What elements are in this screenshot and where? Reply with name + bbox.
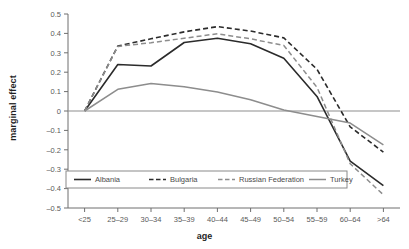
y-axis-tick-label: –0.2 [46, 146, 61, 155]
x-axis-tick-label: 35–39 [174, 215, 195, 224]
y-axis-tick-label: 0.5 [51, 10, 61, 19]
legend-label-albania: Albania [95, 175, 121, 184]
y-axis-tick-label: 0.3 [51, 49, 61, 58]
y-axis-tick-label: –0.5 [46, 204, 61, 213]
y-axis-title-text: marginal effect [8, 75, 18, 141]
y-axis-title: marginal effect [2, 0, 24, 215]
marginal-effect-line-chart: 0.50.40.30.20.10–0.1–0.2–0.3–0.4–0.5 <25… [0, 0, 409, 249]
x-axis-tick-label: >64 [377, 215, 390, 224]
x-axis-tick-label: 55–59 [307, 215, 328, 224]
y-axis-tick-label: 0.2 [51, 68, 61, 77]
x-axis-tick-label: <25 [78, 215, 91, 224]
series-line-albania [85, 38, 384, 185]
y-axis-tick-label: –0.4 [46, 184, 61, 193]
x-axis-tick-label: 40–44 [207, 215, 228, 224]
y-axis-tick-label: 0.1 [51, 87, 61, 96]
x-axis-tick-label: 50–54 [273, 215, 294, 224]
x-axis-tick-label: 60–64 [340, 215, 361, 224]
y-axis-tick-label: 0.4 [51, 29, 61, 38]
x-axis-tick-label: 45–49 [240, 215, 261, 224]
y-axis-tick-label: –0.3 [46, 165, 61, 174]
legend-label-turkey: Turkey [330, 175, 353, 184]
x-axis-tick-label: 30–34 [141, 215, 162, 224]
chart-canvas: 0.50.40.30.20.10–0.1–0.2–0.3–0.4–0.5 <25… [0, 0, 409, 249]
y-axis-tick-group: 0.50.40.30.20.10–0.1–0.2–0.3–0.4–0.5 [46, 10, 68, 213]
legend-label-bulgaria: Bulgaria [170, 175, 198, 184]
y-axis-tick-label: –0.1 [46, 126, 61, 135]
chart-legend: AlbaniaBulgariaRussian FederationTurkey [66, 171, 353, 188]
x-axis-title: age [0, 231, 409, 241]
x-axis-tick-label: 25–29 [107, 215, 128, 224]
legend-label-russian-federation: Russian Federation [239, 175, 304, 184]
x-axis-tick-group: <2525–2930–3435–3940–4445–4950–5455–5960… [78, 208, 390, 224]
y-axis-tick-label: 0 [57, 107, 61, 116]
